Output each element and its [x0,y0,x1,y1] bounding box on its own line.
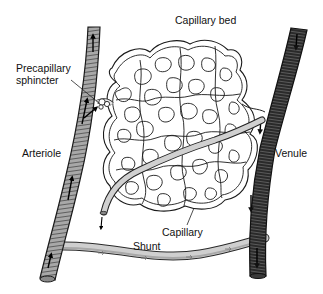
venule-junction [242,104,265,112]
precapillary-sphincter [97,99,112,109]
label-capillary-bed: Capillary bed [175,14,236,26]
capillary-flow-arrow [101,217,102,228]
capillary-leader-line [187,208,194,225]
label-venule: Venule [275,147,307,159]
capillary-network [103,40,257,211]
label-precapillary-sphincter-line2: sphincter [16,74,59,86]
label-precapillary-sphincter-line1: Precapillary [16,62,71,74]
label-arteriole: Arteriole [22,147,61,159]
label-capillary: Capillary [162,226,203,238]
label-shunt: Shunt [133,240,160,252]
shunt-vessel [58,238,265,260]
